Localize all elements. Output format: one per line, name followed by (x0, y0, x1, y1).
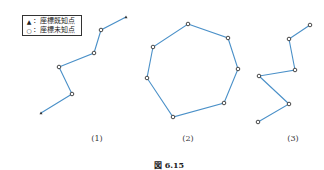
unknown-point-circle-icon (145, 76, 149, 80)
figure-2-label: (2) (182, 134, 193, 143)
legend-known-row: ▲ ：座標既知点 (26, 17, 81, 26)
legend-unknown-label: ：座標未知点 (33, 26, 75, 35)
unknown-point-circle-icon (92, 51, 96, 55)
figure-caption: 図 6.15 (154, 159, 184, 170)
unknown-point-circle-icon (308, 23, 312, 27)
unknown-point-circle-icon (222, 101, 226, 105)
legend-known-label: ：座標既知点 (33, 17, 75, 26)
unknown-point-circle-icon (70, 92, 74, 96)
unknown-point-circle-icon (99, 28, 103, 32)
unknown-point-circle-icon (256, 120, 260, 124)
figure-3-label: (3) (287, 134, 298, 143)
traverse-line (258, 25, 310, 122)
unknown-point-circle-icon (287, 102, 291, 106)
triangle-icon: ▲ (26, 17, 32, 26)
unknown-point-circle-icon (236, 67, 240, 71)
legend: ▲ ：座標既知点 ○ ：座標未知点 (22, 15, 82, 36)
unknown-point-circle-icon (186, 22, 190, 26)
unknown-point-circle-icon (226, 36, 230, 40)
legend-unknown-row: ○ ：座標未知点 (26, 26, 81, 35)
unknown-point-circle-icon (257, 74, 261, 78)
figure-3 (256, 23, 312, 124)
unknown-point-circle-icon (293, 68, 297, 72)
unknown-point-circle-icon (57, 65, 61, 69)
unknown-point-circle-icon (287, 37, 291, 41)
unknown-point-circle-icon (171, 115, 175, 119)
figure-1-label: (1) (91, 134, 102, 143)
known-point-triangle-icon (125, 15, 128, 18)
unknown-point-circle-icon (151, 45, 155, 49)
circle-icon: ○ (26, 26, 32, 35)
figure-2 (145, 22, 240, 119)
